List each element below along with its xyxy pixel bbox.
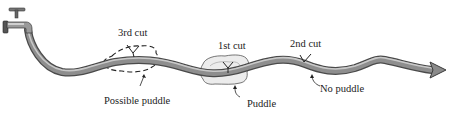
cut-mark-3rd (127, 45, 139, 57)
pointer-no-puddle (310, 74, 320, 86)
label-1st-cut: 1st cut (218, 40, 246, 51)
label-possible-puddle: Possible puddle (104, 95, 170, 106)
label-2nd-cut: 2nd cut (290, 38, 321, 49)
label-no-puddle: No puddle (320, 83, 364, 94)
label-3rd-cut: 3rd cut (118, 27, 147, 38)
label-puddle: Puddle (247, 98, 276, 109)
diagram-graphic (0, 0, 453, 115)
water-tap-icon (3, 8, 32, 33)
hose-cut-diagram: 3rd cut 1st cut 2nd cut Possible puddle … (0, 0, 453, 115)
pointer-puddle (233, 85, 240, 97)
pointer-possible-puddle (140, 74, 146, 86)
